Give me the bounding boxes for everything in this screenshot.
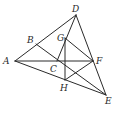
segment-hf [65, 61, 93, 80]
point-label-e: E [104, 96, 112, 106]
point-label-g: G [57, 33, 64, 43]
point-label-b: B [26, 35, 34, 45]
segment-de [76, 15, 106, 95]
point-label-h: H [59, 83, 68, 93]
segment-be [36, 44, 106, 95]
point-label-a: A [2, 56, 10, 66]
point-label-c: C [50, 64, 57, 74]
geometry-diagram: ABCDEFGH [0, 0, 122, 113]
point-label-f: F [95, 56, 103, 66]
point-label-d: D [71, 4, 79, 14]
diagram-canvas: ABCDEFGH [0, 0, 122, 113]
